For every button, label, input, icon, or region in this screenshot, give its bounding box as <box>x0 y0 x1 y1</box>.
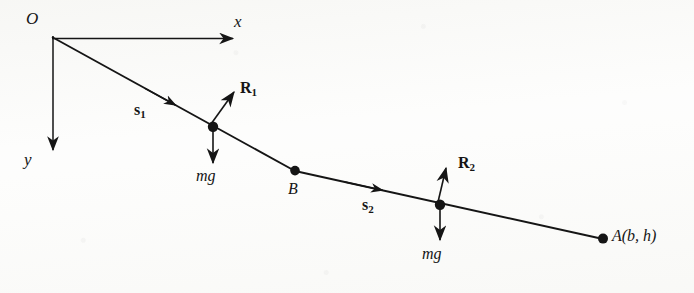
weight-1-label: mg <box>196 168 216 184</box>
path-segment-2 <box>295 171 603 239</box>
point-a-label: A(b, h) <box>612 228 656 244</box>
weight-2-label: mg <box>422 246 442 262</box>
displacement-2-label: s2 <box>362 197 374 215</box>
reaction-2-label: R2 <box>458 155 475 173</box>
reaction-1-subscript: 1 <box>252 86 258 98</box>
reaction-2-symbol: R <box>458 154 470 171</box>
reaction-force-1-arrow <box>211 92 234 124</box>
point-b-label: B <box>288 181 298 197</box>
origin-label: O <box>26 10 38 27</box>
point-a-bead <box>598 234 608 244</box>
reaction-1-symbol: R <box>240 79 252 96</box>
displacement-1-label: s1 <box>134 102 146 120</box>
displacement-2-subscript: 2 <box>368 203 374 215</box>
point-b-bead <box>290 166 300 176</box>
displacement-2-arrowhead <box>345 182 383 190</box>
reaction-1-label: R1 <box>240 80 257 98</box>
displacement-1-subscript: 1 <box>140 108 146 120</box>
diagram-vector-layer <box>0 0 694 293</box>
x-axis-label: x <box>234 13 242 30</box>
reaction-2-subscript: 2 <box>470 161 476 173</box>
y-axis-label: y <box>24 151 32 168</box>
displacement-1-arrowhead <box>145 88 176 105</box>
reaction-force-2-arrow <box>438 168 446 202</box>
figure-canvas: O x y s1 R1 mg B s2 R2 mg A(b, h) <box>0 0 694 293</box>
